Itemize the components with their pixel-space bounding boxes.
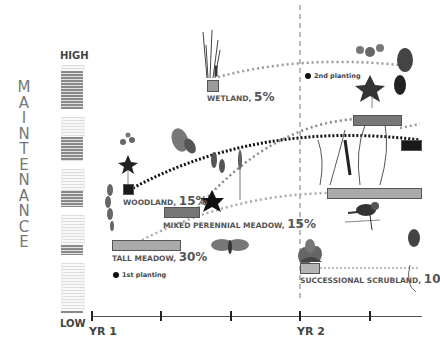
mixed-meadow-label: MIXED PERENNIAL MEADOW, 15% xyxy=(163,217,316,231)
habitat-pct: 10 xyxy=(424,272,440,286)
habitat-name: TALL MEADOW, xyxy=(112,254,176,263)
seedling-icon xyxy=(298,239,322,265)
note-text: 1st planting xyxy=(122,271,166,279)
bullet-icon xyxy=(113,272,119,278)
woodland-bar-yr2 xyxy=(401,140,422,151)
habitat-name: SUCCESSIONAL SCRUBLAND, xyxy=(300,276,421,285)
tall-meadow-label: TALL MEADOW, 30% xyxy=(112,250,207,264)
mixed-meadow-bar-yr2 xyxy=(353,115,402,126)
woodland-plant-icon xyxy=(118,133,138,187)
second-planting-note: 2nd planting xyxy=(305,72,361,80)
shrub-icon xyxy=(394,48,413,95)
first-planting-note: 1st planting xyxy=(113,271,166,279)
fern-icon xyxy=(318,125,387,185)
butterfly-icon xyxy=(168,126,198,155)
woodland-label: WOODLAND, 15% xyxy=(123,194,208,208)
habitat-name: WOODLAND, xyxy=(123,198,176,207)
habitat-pct: 5% xyxy=(254,90,274,104)
reed-icon xyxy=(203,30,220,78)
leaf-icon xyxy=(408,229,420,247)
lupine-icon xyxy=(105,184,114,231)
habitat-pct: 30% xyxy=(179,250,208,264)
mixed-meadow-connector-cont xyxy=(400,124,420,128)
habitat-name: MIXED PERENNIAL MEADOW, xyxy=(163,221,285,230)
scrubland-label: SUCCESSIONAL SCRUBLAND, 10 xyxy=(300,272,440,286)
tall-meadow-bar-yr2 xyxy=(327,188,422,199)
habitat-name: WETLAND, xyxy=(207,94,251,103)
wetland-label: WETLAND, 5% xyxy=(207,90,274,104)
bullet-icon xyxy=(305,73,311,79)
note-text: 2nd planting xyxy=(314,72,361,80)
habitat-pct: 15% xyxy=(179,194,208,208)
moth-icon xyxy=(211,239,249,254)
bird-icon xyxy=(345,202,380,230)
habitat-pct: 15% xyxy=(287,217,316,231)
